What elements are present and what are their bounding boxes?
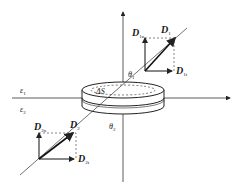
svg-text:D1t: D1t: [175, 65, 188, 77]
boundary-condition-diagram: ε1 ε2 ΔS θ1 θ2 D1n D1 D1t D2n D2 D2t: [0, 0, 242, 194]
lower-vector-group: [39, 133, 76, 159]
svg-text:ε1: ε1: [20, 86, 26, 96]
svg-text:θ2: θ2: [109, 122, 116, 132]
delta-s-label: ΔS: [95, 87, 105, 96]
svg-text:D1: D1: [160, 24, 171, 36]
d1-label: D: [160, 24, 168, 35]
svg-text:D2: D2: [69, 119, 80, 131]
d2n-label: D: [33, 121, 41, 132]
d2t-label: D: [77, 153, 85, 164]
d2-label: D: [69, 119, 77, 130]
svg-text:θ1: θ1: [128, 70, 135, 80]
upper-vector-group: [145, 38, 175, 71]
svg-text:D2t: D2t: [77, 153, 90, 165]
d1-vector-arrow: [145, 38, 175, 71]
svg-text:D1n: D1n: [131, 27, 145, 39]
d1t-label: D: [175, 65, 183, 76]
svg-text:D2n: D2n: [33, 121, 47, 133]
svg-text:ε2: ε2: [20, 105, 26, 115]
d1n-label: D: [131, 27, 139, 38]
d2-vector-arrow: [39, 133, 73, 159]
